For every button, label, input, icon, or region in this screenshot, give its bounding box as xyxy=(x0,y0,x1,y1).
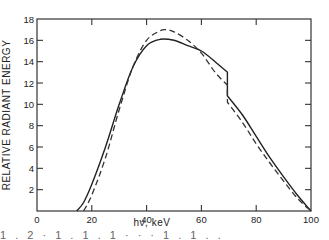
series-solid-line xyxy=(77,39,311,211)
x-axis-title: hν, keV xyxy=(134,217,171,228)
y-axis-title: RELATIVE RADIANT ENERGY xyxy=(1,40,12,191)
plot-frame xyxy=(37,19,311,211)
y-tick-label: 8 xyxy=(29,120,34,131)
y-axis-ticks: 24681012141618 xyxy=(23,14,311,196)
x-tick-label: 60 xyxy=(196,214,207,225)
chart: 020406080100 24681012141618 hν, keV RELA… xyxy=(0,0,329,240)
y-tick-label: 12 xyxy=(23,78,34,89)
axis-frame xyxy=(37,19,311,211)
y-tick-label: 6 xyxy=(29,142,34,153)
caption-fragment: 1 . 2 · 1 . 1 . 1 · · · 1 . 1 . . xyxy=(0,229,329,240)
x-axis-ticks: 020406080100 xyxy=(34,19,319,225)
y-tick-label: 16 xyxy=(23,35,34,46)
y-tick-label: 10 xyxy=(23,99,34,110)
x-tick-label: 80 xyxy=(251,214,262,225)
x-tick-label: 20 xyxy=(87,214,98,225)
y-tick-label: 4 xyxy=(29,163,34,174)
x-tick-label: 0 xyxy=(34,214,39,225)
series-dashed-line xyxy=(84,29,311,211)
y-tick-label: 14 xyxy=(23,56,34,67)
y-tick-label: 18 xyxy=(23,14,34,25)
y-tick-label: 2 xyxy=(29,184,34,195)
data-series xyxy=(77,29,311,211)
x-tick-label: 100 xyxy=(303,214,319,225)
